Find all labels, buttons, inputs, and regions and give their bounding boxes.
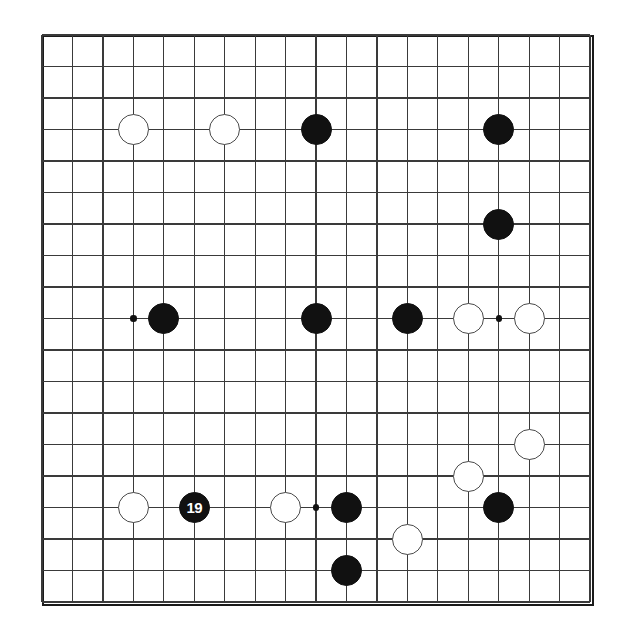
move-number-label: 19: [186, 500, 202, 515]
stone-white[interactable]: [118, 114, 149, 145]
stone-white[interactable]: [514, 303, 545, 334]
stone-black[interactable]: [392, 303, 423, 334]
grid-line-vertical: [255, 35, 256, 602]
grid-line-vertical: [102, 35, 103, 602]
stone-white[interactable]: [392, 524, 423, 555]
stone-white[interactable]: [514, 429, 545, 460]
go-diagram-page: 19: [0, 0, 631, 643]
grid-line-vertical: [376, 35, 377, 602]
grid-line-vertical: [437, 35, 438, 602]
stone-black[interactable]: [301, 114, 332, 145]
stone-black-marked[interactable]: 19: [179, 492, 210, 523]
stone-black[interactable]: [331, 555, 362, 586]
hoshi-point-icon: [130, 315, 137, 322]
stone-black[interactable]: [483, 209, 514, 240]
hoshi-point-icon: [496, 315, 503, 322]
stone-black[interactable]: [331, 492, 362, 523]
grid-line-vertical: [589, 35, 590, 602]
grid-line-vertical: [41, 35, 42, 602]
stone-white[interactable]: [270, 492, 301, 523]
grid-line-vertical: [72, 35, 73, 602]
hoshi-point-icon: [313, 504, 320, 511]
stone-white[interactable]: [453, 303, 484, 334]
go-board[interactable]: 19: [31, 24, 601, 613]
grid-line-vertical: [559, 35, 560, 602]
stone-black[interactable]: [301, 303, 332, 334]
stone-white[interactable]: [209, 114, 240, 145]
stone-white[interactable]: [118, 492, 149, 523]
board-area: 19: [0, 0, 631, 643]
stone-white[interactable]: [453, 461, 484, 492]
